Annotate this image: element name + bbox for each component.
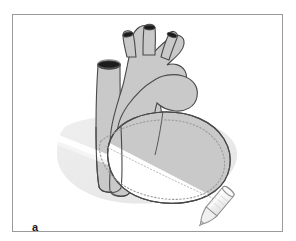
figure-frame: a	[12, 14, 283, 232]
figure-panel: a	[0, 0, 296, 241]
panel-label: a	[32, 221, 38, 232]
carotid-lumen	[144, 25, 155, 30]
heart-ultrasound-illustration	[13, 15, 282, 231]
left-common-carotid-artery	[143, 24, 155, 55]
